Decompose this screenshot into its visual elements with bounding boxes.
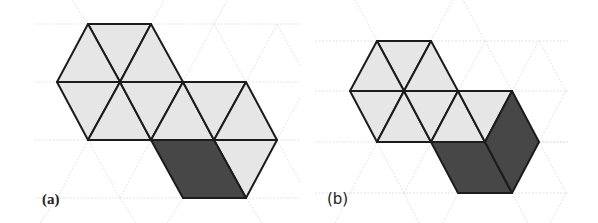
panel-a-label: (a) (42, 191, 60, 208)
panel-a-tiling (57, 24, 277, 198)
panel-b-tiling (350, 41, 539, 193)
tiling-figure (0, 0, 598, 223)
panel-b-label: (b) (327, 190, 348, 208)
